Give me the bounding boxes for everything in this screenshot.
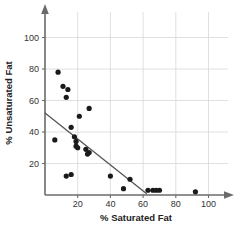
data-point [193,189,198,194]
data-point [75,145,80,150]
data-point [157,188,162,193]
x-tick-label: 100 [201,199,216,209]
data-point [127,177,132,182]
x-tick-label: 20 [73,199,83,209]
data-point [60,84,65,89]
data-point [145,188,150,193]
x-axis-arrow-icon [224,191,234,199]
plot-canvas: 2040608010020406080100 % Saturated Fat %… [0,0,235,226]
data-point [85,151,90,156]
y-tick-label: 20 [29,159,39,169]
data-point [64,95,69,100]
data-point [87,106,92,111]
axes-group [41,4,234,199]
y-axis-arrow-icon [41,4,49,14]
y-axis-title: % Unsaturated Fat [3,60,14,144]
x-tick-label: 80 [171,199,181,209]
data-point [69,125,74,130]
data-point [121,186,126,191]
data-point [73,139,78,144]
data-point [52,137,57,142]
data-point [65,87,70,92]
data-point [77,114,82,119]
data-point [64,174,69,179]
data-point [108,174,113,179]
y-tick-label: 60 [29,96,39,106]
data-point [55,70,60,75]
data-point [69,172,74,177]
x-tick-label: 40 [105,199,115,209]
y-tick-label: 40 [29,127,39,137]
scatter-plot-figure: 2040608010020406080100 % Saturated Fat %… [0,0,235,226]
y-tick-label: 80 [29,64,39,74]
gridlines-group [45,12,228,195]
tick-labels-group: 2040608010020406080100 [24,33,216,209]
data-point [72,134,77,139]
x-tick-label: 60 [138,199,148,209]
x-axis-title: % Saturated Fat [100,212,173,223]
y-tick-label: 100 [24,33,39,43]
